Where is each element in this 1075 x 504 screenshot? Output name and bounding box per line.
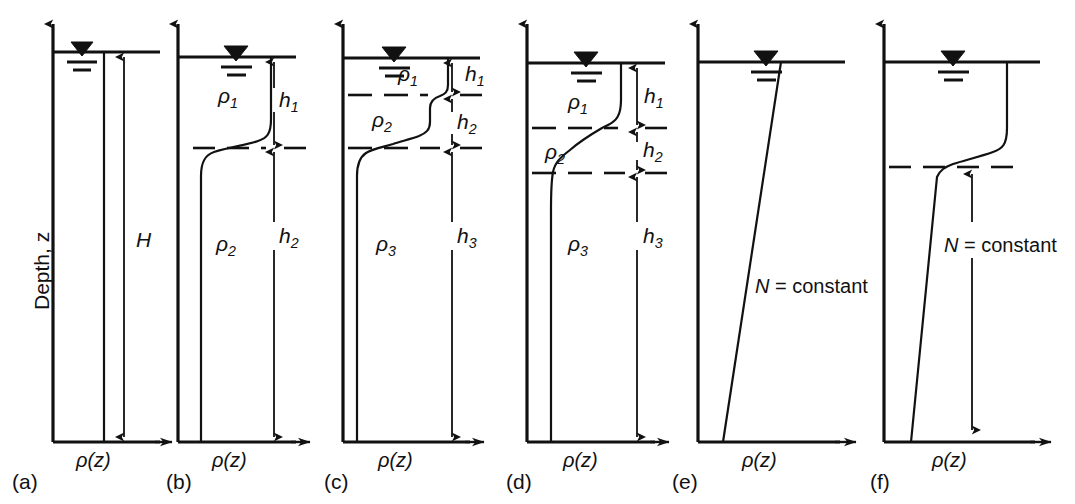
- panel-letter-d: (d): [506, 470, 532, 494]
- h-subscript: 2: [469, 121, 477, 137]
- panel-a-graphics: [53, 24, 172, 442]
- rho-glyph: ρ: [568, 232, 580, 255]
- h-subscript: 1: [656, 95, 664, 111]
- density-axis-label-e: ρ(z): [742, 449, 777, 472]
- h-glyph: h: [279, 224, 291, 247]
- rho-glyph: ρ: [568, 90, 580, 113]
- n-equals-constant-text: = constant: [958, 234, 1056, 256]
- layer-label-rho1-d: ρ1: [568, 90, 588, 117]
- figure-canvas: Depth, z H ρ(z) (a) ρ1 ρ2 h1 h2 ρ(z) (b)…: [0, 0, 1075, 504]
- panel-letter-c: (c): [324, 470, 349, 494]
- n-equals-constant-text: = constant: [769, 275, 867, 297]
- layer-label-rho1-b: ρ1: [218, 84, 238, 111]
- panel-letter-b: (b): [166, 470, 192, 494]
- dimension-label-h2-c: h2: [457, 110, 477, 137]
- dimension-label-h3-c: h3: [457, 224, 477, 251]
- dimension-label-h3-d: h3: [643, 224, 663, 251]
- density-profile-e: [723, 62, 781, 442]
- n-constant-label-e: N = constant: [755, 275, 868, 298]
- layer-label-rho2-b: ρ2: [216, 232, 236, 259]
- h-glyph: h: [643, 224, 655, 247]
- rho-subscript: 2: [384, 119, 392, 135]
- water-surface-triangle-icon-b: [224, 46, 248, 61]
- rho-glyph: ρ: [372, 108, 384, 131]
- dimension-label-h1-d: h1: [644, 84, 664, 111]
- density-profile-b: [201, 57, 271, 442]
- water-surface-triangle-icon-c: [382, 47, 406, 62]
- dimension-label-h2-b: h2: [279, 224, 299, 251]
- h-subscript: 3: [655, 235, 663, 251]
- density-axis-label-f: ρ(z): [932, 449, 967, 472]
- dimension-label-h2-d: h2: [643, 138, 663, 165]
- rho-glyph: ρ: [218, 84, 230, 107]
- layer-label-rho1-c: ρ1: [398, 62, 418, 89]
- rho-glyph: ρ: [216, 232, 228, 255]
- layer-label-rho3-d: ρ3: [568, 232, 588, 259]
- water-surface-triangle-icon-d: [574, 52, 598, 67]
- rho-glyph: ρ: [376, 232, 388, 255]
- h-subscript: 1: [291, 99, 299, 115]
- panel-f-graphics: [884, 24, 1051, 442]
- water-surface-triangle-icon-a: [71, 42, 93, 56]
- n-constant-label-f: N = constant: [944, 234, 1057, 257]
- rho-subscript: 1: [580, 101, 588, 117]
- rho-subscript: 1: [410, 73, 418, 89]
- density-axis-label-c: ρ(z): [378, 449, 413, 472]
- h-glyph: h: [457, 110, 469, 133]
- layer-label-rho3-c: ρ3: [376, 232, 396, 259]
- panel-e-graphics: [698, 24, 856, 442]
- dimension-label-h1-b: h1: [279, 88, 299, 115]
- h-glyph: h: [279, 88, 291, 111]
- h-subscript: 3: [469, 235, 477, 251]
- rho-subscript: 2: [557, 151, 565, 167]
- rho-subscript: 2: [228, 243, 236, 259]
- panel-letter-e: (e): [672, 470, 698, 494]
- panel-letter-f: (f): [870, 470, 890, 494]
- density-axis-label-a: ρ(z): [76, 449, 111, 472]
- rho-glyph: ρ: [545, 140, 557, 163]
- h-subscript: 2: [291, 235, 299, 251]
- water-surface-triangle-icon-e: [754, 51, 778, 66]
- h-glyph: h: [643, 138, 655, 161]
- rho-subscript: 1: [230, 95, 238, 111]
- depth-axis-label: Depth, z: [30, 232, 54, 310]
- panel-letter-a: (a): [12, 470, 38, 494]
- water-surface-triangle-icon-f: [941, 51, 965, 66]
- n-symbol: N: [944, 234, 958, 256]
- density-profile-c: [357, 58, 448, 442]
- diagram-vector-layer: [0, 0, 1075, 504]
- rho-subscript: 3: [580, 243, 588, 259]
- dimension-label-H: H: [136, 228, 151, 252]
- layer-label-rho2-c: ρ2: [372, 108, 392, 135]
- rho-glyph: ρ: [398, 62, 410, 85]
- n-symbol: N: [755, 275, 769, 297]
- h-subscript: 1: [477, 73, 485, 89]
- layer-label-rho2-d: ρ2: [545, 140, 565, 167]
- h-subscript: 2: [655, 149, 663, 165]
- dimension-label-h1-c: h1: [465, 62, 485, 89]
- rho-subscript: 3: [388, 243, 396, 259]
- h-glyph: h: [465, 62, 477, 85]
- density-axis-label-b: ρ(z): [212, 449, 247, 472]
- density-axis-label-d: ρ(z): [563, 449, 598, 472]
- h-glyph: h: [457, 224, 469, 247]
- h-glyph: h: [644, 84, 656, 107]
